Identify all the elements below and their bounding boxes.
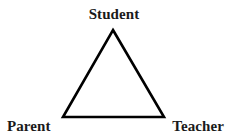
node-label-student: Student bbox=[0, 7, 228, 22]
triangle-outline bbox=[63, 30, 164, 117]
node-label-teacher: Teacher bbox=[172, 119, 224, 134]
node-label-parent: Parent bbox=[7, 119, 51, 134]
triangle-diagram: Student Parent Teacher bbox=[0, 0, 228, 139]
